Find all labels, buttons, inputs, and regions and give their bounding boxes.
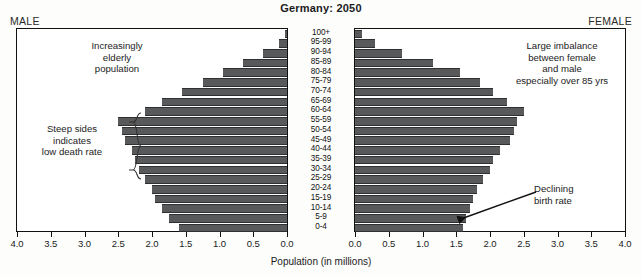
axis-tick	[253, 232, 254, 237]
axis-tick-label-4.0: 4.0	[10, 238, 23, 249]
age-label-85-89: 85-89	[288, 58, 354, 66]
bar-male-35-39	[135, 156, 287, 165]
axis-tick	[118, 232, 119, 237]
bar-female-25-29	[355, 175, 483, 184]
age-label-80-84: 80-84	[288, 68, 354, 76]
axis-tick	[591, 232, 592, 237]
age-label-55-59: 55-59	[288, 116, 354, 124]
age-label-95-99: 95-99	[288, 38, 354, 46]
chart-title: Germany: 2050	[0, 2, 642, 14]
axis-tick	[17, 232, 18, 237]
male-x-axis: 4.03.53.02.52.01.51.00.50.0	[16, 232, 288, 252]
age-label-30-34: 30-34	[288, 165, 354, 173]
age-label-40-44: 40-44	[288, 145, 354, 153]
age-label-45-49: 45-49	[288, 136, 354, 144]
bar-male-80-84	[223, 68, 287, 77]
age-label-60-64: 60-64	[288, 106, 354, 114]
axis-tick-label-1.5: 1.5	[179, 238, 192, 249]
axis-tick-label-1.0: 1.0	[213, 238, 226, 249]
bar-female-100+	[355, 30, 362, 39]
bar-male-50-54	[122, 127, 287, 136]
age-label-25-29: 25-29	[288, 174, 354, 182]
bar-female-90-94	[355, 49, 402, 58]
bar-female-50-54	[355, 127, 514, 136]
age-label-5-9: 5-9	[288, 213, 354, 221]
bar-male-55-59	[118, 117, 287, 126]
bar-male-10-14	[162, 204, 287, 213]
axis-tick	[558, 232, 559, 237]
bar-male-20-24	[152, 185, 287, 194]
bar-male-85-89	[243, 59, 287, 68]
axis-tick	[287, 232, 288, 237]
axis-tick-label-2.0: 2.0	[483, 238, 496, 249]
bar-male-70-74	[182, 88, 287, 97]
axis-tick-label-0.0: 0.0	[280, 238, 293, 249]
axis-tick-label-2.5: 2.5	[517, 238, 530, 249]
age-label-15-19: 15-19	[288, 194, 354, 202]
axis-tick	[220, 232, 221, 237]
age-label-70-74: 70-74	[288, 87, 354, 95]
axis-tick	[625, 232, 626, 237]
axis-tick-label-2.5: 2.5	[112, 238, 125, 249]
declining-birth-rate-arrow-icon	[450, 190, 540, 224]
female-x-axis: 0.00.51.01.52.02.53.03.54.0	[354, 232, 626, 252]
curly-brace-icon	[128, 112, 142, 180]
age-label-35-39: 35-39	[288, 155, 354, 163]
axis-tick	[186, 232, 187, 237]
bar-female-55-59	[355, 117, 517, 126]
bar-female-75-79	[355, 78, 480, 87]
axis-tick	[490, 232, 491, 237]
axis-tick	[85, 232, 86, 237]
axis-tick-label-3.5: 3.5	[585, 238, 598, 249]
age-label-20-24: 20-24	[288, 184, 354, 192]
age-label-50-54: 50-54	[288, 126, 354, 134]
bar-female-95-99	[355, 39, 375, 48]
age-label-75-79: 75-79	[288, 77, 354, 85]
bar-female-40-44	[355, 146, 500, 155]
axis-tick-label-3.5: 3.5	[44, 238, 57, 249]
axis-tick-label-4.0: 4.0	[618, 238, 631, 249]
bar-male-30-34	[139, 166, 288, 175]
age-label-90-94: 90-94	[288, 48, 354, 56]
bar-male-15-19	[155, 195, 287, 204]
axis-tick	[423, 232, 424, 237]
bar-male-90-94	[263, 49, 287, 58]
age-label-65-69: 65-69	[288, 97, 354, 105]
bar-female-65-69	[355, 98, 507, 107]
age-label-0-4: 0-4	[288, 223, 354, 231]
axis-tick-label-0.5: 0.5	[382, 238, 395, 249]
age-group-axis: 100+95-9990-9485-8980-8475-7970-7465-696…	[288, 28, 354, 232]
x-axis-title: Population (in millions)	[0, 256, 642, 267]
axis-tick	[355, 232, 356, 237]
bar-male-60-64	[145, 107, 287, 116]
axis-tick	[456, 232, 457, 237]
axis-tick	[152, 232, 153, 237]
axis-tick-label-1.5: 1.5	[450, 238, 463, 249]
male-side-label: MALE	[10, 15, 40, 27]
bar-female-35-39	[355, 156, 493, 165]
bar-female-45-49	[355, 136, 510, 145]
axis-tick-label-2.0: 2.0	[145, 238, 158, 249]
bar-female-80-84	[355, 68, 460, 77]
axis-tick-label-3.0: 3.0	[78, 238, 91, 249]
annotation-declining-birth-rate: Declining birth rate	[534, 183, 614, 206]
axis-tick	[51, 232, 52, 237]
age-label-10-14: 10-14	[288, 204, 354, 212]
bar-male-45-49	[125, 136, 287, 145]
bar-female-30-34	[355, 166, 490, 175]
bar-female-70-74	[355, 88, 493, 97]
bar-male-95-99	[279, 39, 287, 48]
annotation-steep-sides: Steep sides indicates low death rate	[18, 123, 126, 158]
axis-tick-label-0.5: 0.5	[247, 238, 260, 249]
annotation-increasingly-elderly: Increasingly elderly population	[62, 40, 172, 75]
age-label-100+: 100+	[288, 29, 354, 37]
axis-tick	[524, 232, 525, 237]
annotation-large-imbalance: Large imbalance between female and male …	[492, 40, 632, 86]
bar-male-40-44	[132, 146, 287, 155]
bar-male-100+	[285, 30, 287, 39]
bar-female-60-64	[355, 107, 524, 116]
bar-female-85-89	[355, 59, 433, 68]
bar-male-75-79	[203, 78, 287, 87]
axis-tick-label-3.0: 3.0	[551, 238, 564, 249]
chart-canvas: Germany: 2050 MALE FEMALE 100+95-9990-94…	[0, 0, 642, 277]
